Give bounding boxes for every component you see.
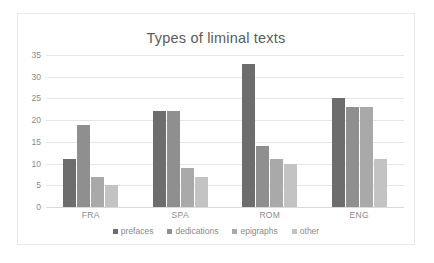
y-axis-tick-label: 25 (32, 93, 41, 103)
legend-swatch-icon (292, 229, 297, 234)
bar-group-eng (315, 55, 405, 207)
bar-group-fra (46, 55, 136, 207)
legend-label: dedications (175, 226, 218, 236)
x-axis-label-rom: ROM (225, 210, 315, 220)
chart-legend: prefacesdedicationsepigraphsother (18, 226, 414, 236)
bar-eng-other[interactable] (374, 159, 387, 207)
y-axis-tick-label: 10 (32, 159, 41, 169)
bar-eng-epigraphs[interactable] (360, 107, 373, 207)
x-axis-category-labels: FRASPAROMENG (46, 210, 404, 220)
legend-swatch-icon (232, 229, 237, 234)
y-axis-tick-label: 35 (32, 50, 41, 60)
x-axis-label-spa: SPA (136, 210, 226, 220)
bar-spa-other[interactable] (195, 177, 208, 207)
legend-swatch-icon (167, 229, 172, 234)
legend-label: prefaces (121, 226, 154, 236)
bar-spa-epigraphs[interactable] (181, 168, 194, 207)
x-axis-label-eng: ENG (315, 210, 405, 220)
bar-fra-dedications[interactable] (77, 125, 90, 208)
legend-item-prefaces[interactable]: prefaces (113, 226, 154, 236)
bar-spa-dedications[interactable] (167, 111, 180, 207)
legend-item-dedications[interactable]: dedications (167, 226, 218, 236)
y-axis-tick-label: 0 (36, 202, 41, 212)
y-axis-tick-label: 20 (32, 115, 41, 125)
bar-group-spa (136, 55, 226, 207)
bar-fra-prefaces[interactable] (63, 159, 76, 207)
gridline (46, 207, 404, 208)
bar-rom-prefaces[interactable] (242, 64, 255, 207)
y-axis-tick-label: 30 (32, 72, 41, 82)
legend-label: other (300, 226, 319, 236)
bar-eng-dedications[interactable] (346, 107, 359, 207)
x-axis-label-fra: FRA (46, 210, 136, 220)
legend-label: epigraphs (240, 226, 277, 236)
y-axis-tick-label: 15 (32, 137, 41, 147)
bar-eng-prefaces[interactable] (332, 98, 345, 207)
bar-rom-epigraphs[interactable] (270, 159, 283, 207)
bar-rom-other[interactable] (284, 164, 297, 207)
chart-container: Types of liminal texts 05101520253035 FR… (17, 13, 415, 245)
y-axis-tick-label: 5 (36, 180, 41, 190)
bar-series-layer (46, 55, 404, 207)
chart-title: Types of liminal texts (18, 30, 414, 46)
bar-fra-epigraphs[interactable] (91, 177, 104, 207)
bar-spa-prefaces[interactable] (153, 111, 166, 207)
bar-rom-dedications[interactable] (256, 146, 269, 207)
legend-item-epigraphs[interactable]: epigraphs (232, 226, 277, 236)
legend-item-other[interactable]: other (292, 226, 319, 236)
bar-fra-other[interactable] (105, 185, 118, 207)
legend-swatch-icon (113, 229, 118, 234)
plot-area: 05101520253035 (46, 55, 404, 207)
bar-group-rom (225, 55, 315, 207)
